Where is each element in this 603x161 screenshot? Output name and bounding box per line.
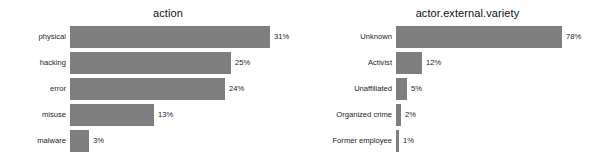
category-label: malware	[4, 136, 66, 146]
category-label: misuse	[4, 110, 66, 120]
bar-row: Unknown 78%	[300, 24, 603, 50]
bar-track: 25%	[70, 52, 296, 74]
bar-row: malware 3%	[0, 128, 300, 154]
bar-value-label: 5%	[407, 84, 422, 94]
bar-row: Former employee 1%	[300, 128, 603, 154]
category-label: Unknown	[300, 32, 392, 42]
category-label: Former employee	[300, 136, 392, 146]
category-label: error	[4, 84, 66, 94]
category-label: Organized crime	[300, 110, 392, 120]
bar-value-label: 13%	[154, 110, 173, 120]
bar-row: Organized crime 2%	[300, 102, 603, 128]
bar-row: Unaffiliated 5%	[300, 76, 603, 102]
bar-row: hacking 25%	[0, 50, 300, 76]
bar-track: 5%	[396, 78, 599, 100]
bar-track: 3%	[70, 130, 296, 152]
bar-value-label: 2%	[401, 110, 416, 120]
chart-page: action physical 31% hacking 25% error	[0, 0, 603, 161]
bar-track: 12%	[396, 52, 599, 74]
bar-value-label: 31%	[270, 32, 289, 42]
bar-value-label: 78%	[562, 32, 581, 42]
category-label: Activist	[300, 58, 392, 68]
bar-row: Activist 12%	[300, 50, 603, 76]
bar-row: misuse 13%	[0, 102, 300, 128]
bar	[396, 78, 407, 100]
bar-value-label: 3%	[89, 136, 104, 146]
bar-track: 1%	[396, 130, 599, 152]
bar	[396, 26, 562, 48]
category-label: Unaffiliated	[300, 84, 392, 94]
chart-panel-actor-external-variety: actor.external.variety Unknown 78% Activ…	[300, 0, 603, 161]
bar	[396, 52, 422, 74]
category-label: physical	[4, 32, 66, 42]
bar-value-label: 25%	[231, 58, 250, 68]
bar-track: 13%	[70, 104, 296, 126]
bar	[70, 26, 270, 48]
bar-track: 2%	[396, 104, 599, 126]
bar-value-label: 12%	[422, 58, 441, 68]
chart-title-actor: actor.external.variety	[300, 7, 603, 20]
bar	[70, 104, 154, 126]
plot-area-action: physical 31% hacking 25% error 24%	[0, 24, 300, 156]
bar-row: error 24%	[0, 76, 300, 102]
category-label: hacking	[4, 58, 66, 68]
bar-value-label: 1%	[399, 136, 414, 146]
chart-panel-action: action physical 31% hacking 25% error	[0, 0, 300, 161]
bar-track: 24%	[70, 78, 296, 100]
bar-value-label: 24%	[225, 84, 244, 94]
chart-title-action: action	[0, 7, 300, 20]
bar	[70, 130, 89, 152]
bar-row: physical 31%	[0, 24, 300, 50]
bar-track: 31%	[70, 26, 296, 48]
bar-track: 78%	[396, 26, 599, 48]
bar	[70, 52, 231, 74]
plot-area-actor: Unknown 78% Activist 12% Unaffiliated 5%	[300, 24, 603, 156]
bar	[70, 78, 225, 100]
